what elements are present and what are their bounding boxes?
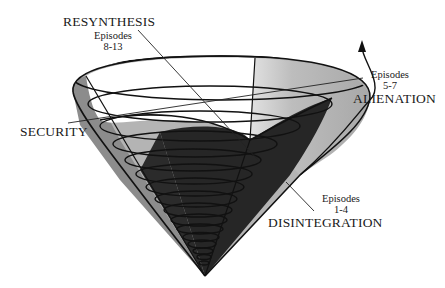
upward-arrow-icon <box>358 40 366 52</box>
security-label: SECURITY <box>20 125 88 139</box>
alienation-label: ALIENATION <box>353 92 436 106</box>
cone-body <box>73 56 370 276</box>
disintegration-label: DISINTEGRATION <box>268 216 383 230</box>
resynthesis-episodes-label: Episodes <box>92 31 134 42</box>
resynthesis-label: RESYNTHESIS <box>63 15 155 29</box>
resynthesis-episodes-range: 8-13 <box>92 42 134 53</box>
spiral-cone-diagram <box>0 0 445 288</box>
disintegration-episodes-range: 1-4 <box>316 205 366 216</box>
alienation-episodes-label: Episodes <box>365 70 415 81</box>
disintegration-pointer <box>286 182 314 211</box>
alienation-episodes-range: 5-7 <box>365 81 415 92</box>
disintegration-episodes-label: Episodes <box>316 194 366 205</box>
